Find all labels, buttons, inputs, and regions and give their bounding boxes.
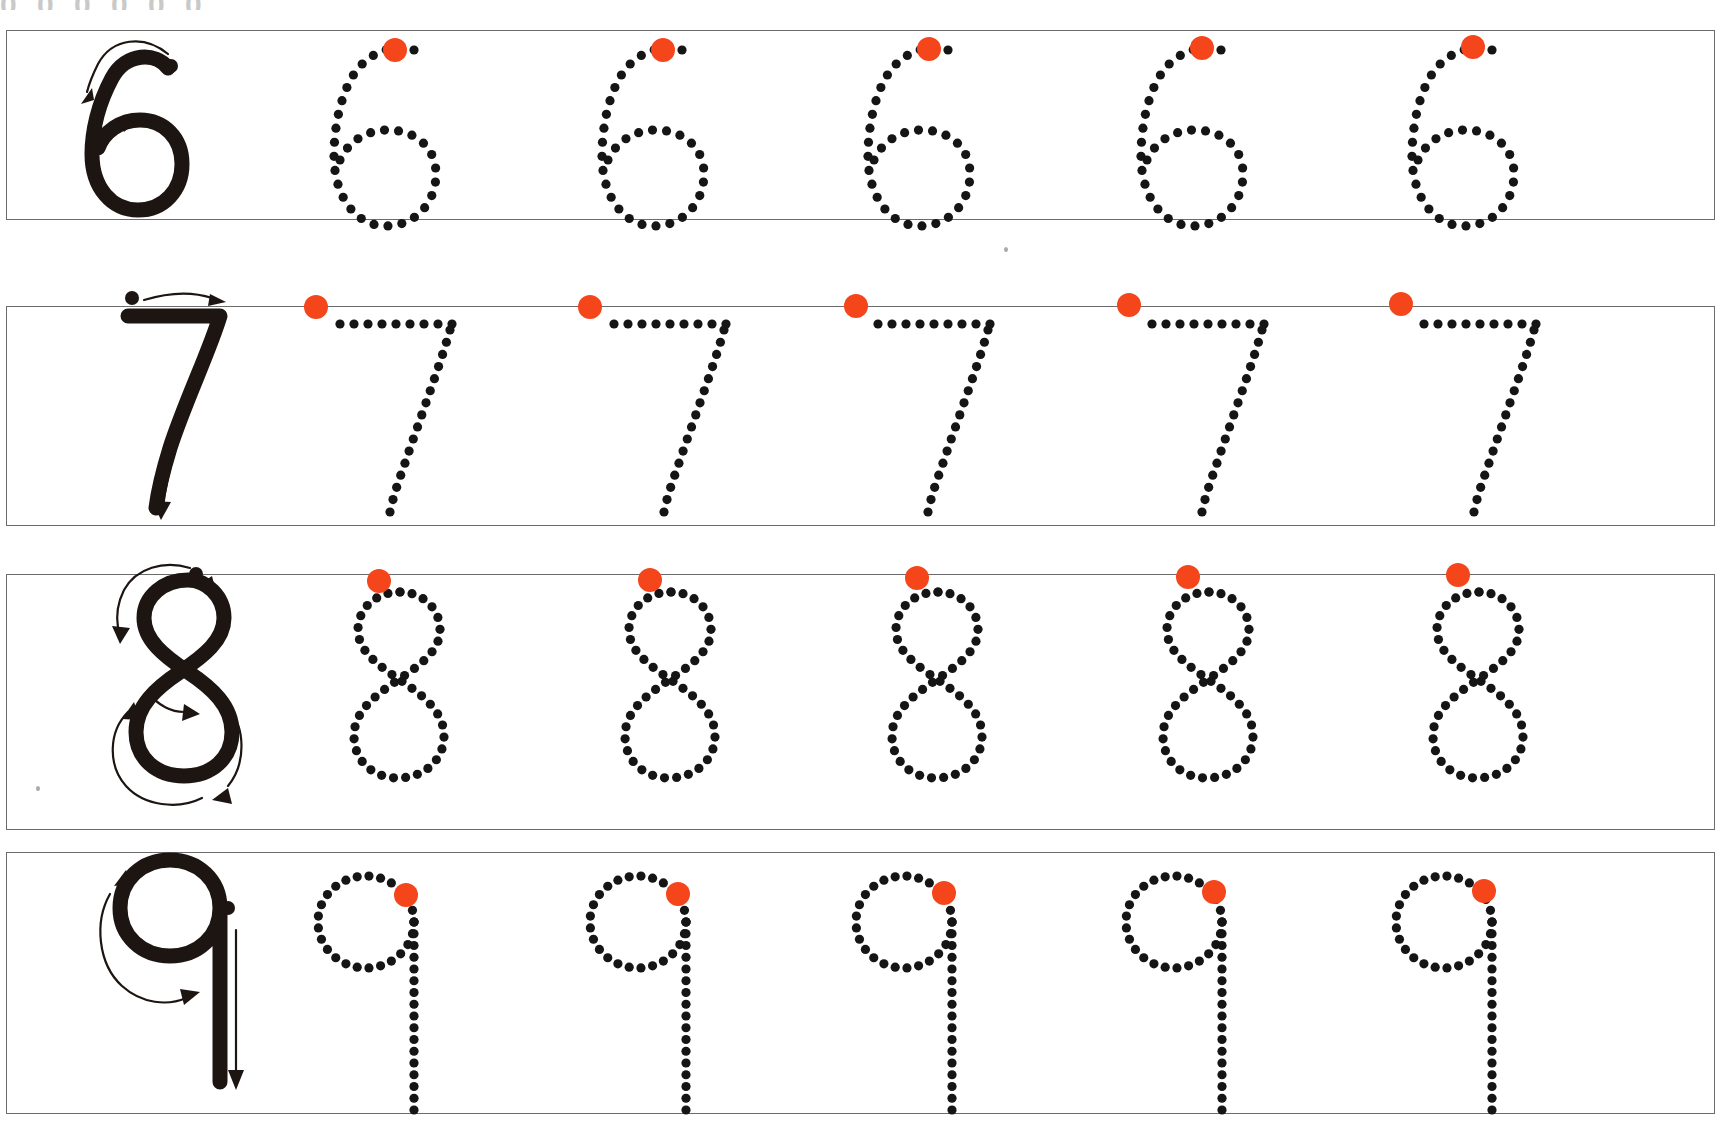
trace-nine-5[interactable] (1386, 866, 1546, 1116)
trace-start-dot (1117, 293, 1141, 317)
trace-start-dot (651, 38, 675, 62)
trace-start-dot (1190, 36, 1214, 60)
scan-speck (36, 786, 40, 791)
trace-start-dot (367, 569, 391, 593)
trace-nine-3[interactable] (846, 866, 1006, 1116)
trace-start-dot (666, 882, 690, 906)
trace-nine-2[interactable] (580, 866, 740, 1116)
trace-start-dot (917, 37, 941, 61)
trace-nine-1[interactable] (308, 866, 468, 1116)
trace-start-dot (383, 38, 407, 62)
practice-row-eight (6, 574, 1715, 830)
trace-seven-5[interactable] (1406, 316, 1566, 516)
practice-row-seven (6, 306, 1715, 526)
trace-six-3[interactable] (844, 44, 994, 234)
practice-row-nine (6, 852, 1715, 1114)
trace-six-5[interactable] (1388, 44, 1538, 234)
model-numeral-seven (60, 296, 320, 536)
model-numeral-nine (60, 838, 320, 1108)
trace-start-dot (638, 568, 662, 592)
trace-start-dot (1472, 879, 1496, 903)
trace-start-dot (905, 566, 929, 590)
worksheet-page: 0 0 0 0 0 0 (0, 0, 1728, 1129)
trace-eight-3[interactable] (864, 584, 1014, 804)
practice-row-six (6, 30, 1715, 220)
trace-start-dot (578, 295, 602, 319)
trace-nine-4[interactable] (1116, 866, 1276, 1116)
page-top-bleed-text: 0 0 0 0 0 0 (0, 0, 1728, 10)
model-start-dot (125, 291, 139, 305)
trace-start-dot (304, 295, 328, 319)
trace-seven-2[interactable] (596, 316, 756, 516)
model-start-dot (189, 567, 203, 581)
model-start-dot (221, 901, 235, 915)
trace-eight-4[interactable] (1135, 584, 1285, 804)
trace-start-dot (1446, 563, 1470, 587)
trace-seven-4[interactable] (1134, 316, 1294, 516)
trace-start-dot (932, 881, 956, 905)
trace-start-dot (1461, 35, 1485, 59)
model-numeral-six (40, 20, 300, 250)
trace-seven-1[interactable] (322, 316, 482, 516)
trace-eight-1[interactable] (326, 584, 476, 804)
scan-speck (1004, 247, 1008, 252)
trace-start-dot (394, 883, 418, 907)
trace-start-dot (1202, 880, 1226, 904)
trace-seven-3[interactable] (860, 316, 1020, 516)
trace-six-2[interactable] (578, 44, 728, 234)
model-numeral-eight (60, 560, 320, 820)
trace-eight-5[interactable] (1405, 584, 1555, 804)
trace-start-dot (844, 294, 868, 318)
trace-eight-2[interactable] (597, 584, 747, 804)
trace-six-1[interactable] (310, 44, 460, 234)
model-start-dot (164, 59, 178, 73)
trace-start-dot (1389, 292, 1413, 316)
trace-start-dot (1176, 565, 1200, 589)
trace-six-4[interactable] (1117, 44, 1267, 234)
